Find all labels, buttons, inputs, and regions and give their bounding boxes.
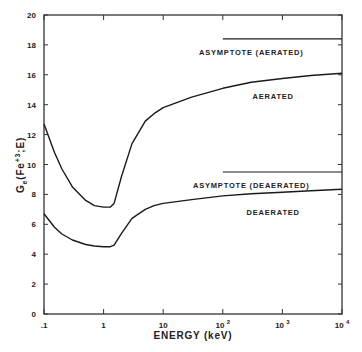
y-axis-title: Ge(Fe+3;E)	[14, 137, 28, 193]
y-tick-label: 12	[27, 131, 36, 140]
y-tick-label: 2	[32, 280, 37, 289]
plot-frame	[44, 15, 342, 314]
x-tick-label: 10	[159, 321, 168, 330]
chart: 02468101214161820 .111010 210 310 4 ASYM…	[0, 0, 362, 352]
annotation-label: ASYMPTOTE (AERATED)	[199, 48, 304, 57]
y-tick-label: 20	[27, 11, 36, 20]
x-tick-label: 10 3	[275, 319, 290, 330]
x-axis-title: ENERGY (keV)	[154, 330, 233, 341]
x-tick-label: 10 4	[335, 319, 350, 330]
y-tick-label: 6	[32, 220, 37, 229]
x-tick-label: 1	[101, 321, 106, 330]
y-tick-label: 4	[32, 250, 37, 259]
y-tick-label: 16	[27, 71, 36, 80]
y-tick-label: 10	[27, 161, 36, 170]
y-tick-label: 18	[27, 41, 36, 50]
y-tick-label: 0	[32, 310, 37, 319]
svg-text:Ge(Fe+3;E): Ge(Fe+3;E)	[14, 137, 28, 193]
y-tick-label: 14	[27, 101, 36, 110]
annotation-label: ASYMPTOTE (DEAERATED)	[193, 181, 310, 190]
x-tick-label: .1	[41, 321, 48, 330]
annotation-label: AERATED	[253, 92, 294, 101]
series-deaerated	[44, 189, 342, 247]
annotation-label: DEAERATED	[247, 208, 300, 217]
y-tick-label: 8	[32, 190, 37, 199]
x-tick-label: 10 2	[216, 319, 231, 330]
